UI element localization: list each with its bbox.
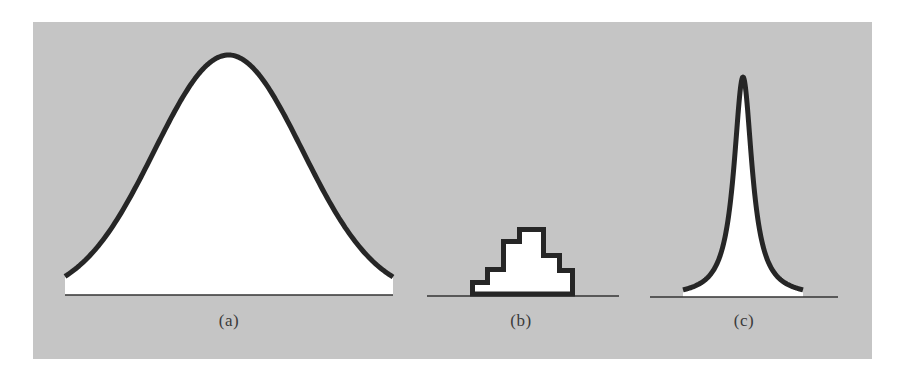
peak-fill [683, 77, 803, 297]
panel-b-histogram [427, 230, 619, 297]
panel-b-label: (b) [510, 311, 531, 331]
panel-c-label: (c) [734, 311, 754, 331]
gaussian-fill [65, 55, 393, 295]
histogram-steps [473, 230, 573, 295]
panel-a-gaussian [65, 55, 393, 295]
panel-c-peak [650, 77, 838, 297]
panel-a-label: (a) [219, 311, 239, 331]
distribution-figure [0, 0, 900, 369]
